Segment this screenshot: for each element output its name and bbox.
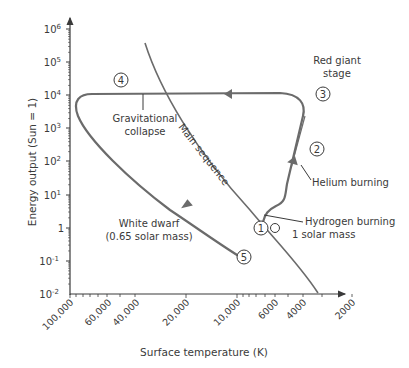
x-tick-20000: 20,000 bbox=[160, 297, 191, 328]
x-tick-labels: 100,000 60,000 40,000 20,000 10,000 6000… bbox=[40, 297, 358, 333]
y-tick-1e1: 101 bbox=[44, 189, 61, 201]
gravitational-label-line1: Gravitational bbox=[113, 113, 178, 124]
x-tick-40000: 40,000 bbox=[110, 297, 141, 328]
x-tick-100000: 100,000 bbox=[40, 297, 76, 333]
main-sequence-label: Main sequence bbox=[176, 121, 231, 187]
y-axis-title: Energy output (Sun = 1) bbox=[26, 98, 38, 226]
white-dwarf-label-line1: White dwarf bbox=[119, 218, 180, 229]
y-tick-1e3: 103 bbox=[44, 122, 61, 134]
y-tick-1e-1: 10-1 bbox=[39, 255, 59, 267]
arrow-red-giant-track bbox=[224, 89, 232, 99]
hydrogen-pointer bbox=[264, 215, 303, 222]
x-tick-6000: 6000 bbox=[256, 297, 281, 322]
x-axis-title: Surface temperature (K) bbox=[140, 346, 268, 358]
white-dwarf-label-line2: (0.65 solar mass) bbox=[105, 231, 192, 242]
x-axis bbox=[70, 294, 352, 298]
x-tick-10000: 10,000 bbox=[211, 297, 242, 328]
helium-burning-label: Helium burning bbox=[312, 177, 389, 188]
arrow-white-dwarf-track bbox=[181, 199, 194, 213]
y-tick-1: 1 bbox=[58, 223, 64, 234]
stage-1-number: 1 bbox=[258, 223, 264, 234]
y-tick-1e6: 106 bbox=[44, 23, 62, 35]
x-tick-4000: 4000 bbox=[284, 297, 309, 322]
y-tick-1e2: 102 bbox=[44, 155, 61, 167]
red-giant-label-line1: Red giant bbox=[313, 55, 361, 66]
helium-pointer bbox=[301, 165, 311, 180]
red-giant-label-line2: stage bbox=[323, 68, 351, 79]
y-tick-labels: 106 105 104 103 102 101 1 10-1 10-2 bbox=[39, 23, 64, 300]
stage-3-number: 3 bbox=[320, 89, 326, 100]
sun-position-marker bbox=[271, 224, 280, 233]
y-axis bbox=[66, 18, 70, 295]
y-tick-1e-2: 10-2 bbox=[39, 288, 59, 300]
stage-4-number: 4 bbox=[118, 75, 124, 86]
x-tick-2000: 2000 bbox=[333, 297, 358, 322]
solar-mass-label: 1 solar mass bbox=[292, 229, 355, 240]
hr-diagram: 1 2 3 4 5 106 105 104 103 102 101 1 10-1… bbox=[0, 0, 409, 368]
y-tick-1e5: 105 bbox=[44, 56, 61, 68]
hydrogen-burning-label: Hydrogen burning bbox=[305, 216, 395, 227]
y-tick-1e4: 104 bbox=[44, 89, 62, 101]
stage-5-number: 5 bbox=[241, 252, 247, 263]
stage-2-number: 2 bbox=[314, 144, 320, 155]
main-sequence-curve bbox=[145, 43, 318, 293]
x-tick-60000: 60,000 bbox=[82, 297, 113, 328]
gravitational-label-line2: collapse bbox=[124, 126, 165, 137]
